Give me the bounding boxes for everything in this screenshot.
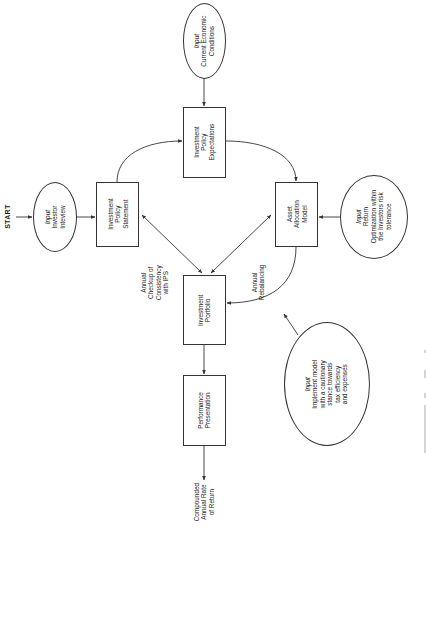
node-text: Presentation <box>205 392 212 429</box>
node-text: Current Economic <box>201 15 208 66</box>
input-tag: Input <box>193 15 200 66</box>
node-text: tolerance <box>385 190 392 244</box>
node-text: the Investors risk <box>378 190 385 244</box>
performance-presentation-node: Performance Presentation <box>183 375 226 446</box>
arrow-implementation <box>284 314 298 335</box>
node-text: Allocation <box>293 201 300 229</box>
start-label: START <box>0 210 23 224</box>
current-economic-conditions-node: Input Current Economic Conditions <box>183 3 226 79</box>
end-text: Compounded <box>193 483 200 521</box>
node-text: Inteview <box>59 205 66 228</box>
node-text: Expectations <box>208 124 215 161</box>
node-text: Investment <box>106 199 113 230</box>
caption-fragment <box>424 370 426 378</box>
implementation-node: Input Implement model with a cautionary … <box>284 322 370 446</box>
investment-policy-expectations-node: Investment Policy Expectations <box>183 107 226 178</box>
end-text: of Return <box>208 483 215 521</box>
node-text: Investor <box>51 205 58 228</box>
return-optimization-node: Input Return Optimization within the Inv… <box>340 175 408 259</box>
asset-allocation-model-node: Asset Allocation Model <box>275 182 318 247</box>
edge-text: Rebalancing <box>259 264 266 300</box>
caption-fragment <box>424 350 426 353</box>
caption-fragment <box>424 405 426 453</box>
annual-checkup-label: Annual Checkup of Consistency with IPS <box>134 258 174 308</box>
edge-text: Checkup of <box>147 266 154 301</box>
investor-interview-node: Input Investor Inteview <box>33 182 77 252</box>
caption-fragment <box>424 393 426 398</box>
node-text: stance towards <box>327 359 334 408</box>
node-text: Investment <box>197 294 204 325</box>
edge-text: Consistency <box>154 266 161 301</box>
arrow-ipe-to-aam <box>226 141 296 181</box>
end-text: Annual Rate <box>200 483 207 521</box>
node-text: Model <box>300 201 307 229</box>
node-text: Asset <box>285 201 292 229</box>
investment-policy-statement-node: Investment Policy Statement <box>96 182 139 247</box>
node-text: and expenses <box>342 359 349 408</box>
node-text: Conditions <box>208 15 215 66</box>
node-text: Statement <box>121 199 128 230</box>
edge-text: with IPS <box>161 266 168 301</box>
annual-rebalancing-label: Annual Rebalancing <box>244 257 274 307</box>
end-label: Compounded Annual Rate of Return <box>184 482 224 522</box>
node-text: Portfolio <box>204 294 211 325</box>
arrow-ips-to-ipe <box>117 141 182 182</box>
start-text: START <box>4 205 11 229</box>
investment-portfolio-node: Investment Portfolio <box>183 275 226 345</box>
node-text: Policy <box>114 199 121 230</box>
edge-text: Annual <box>139 266 146 301</box>
